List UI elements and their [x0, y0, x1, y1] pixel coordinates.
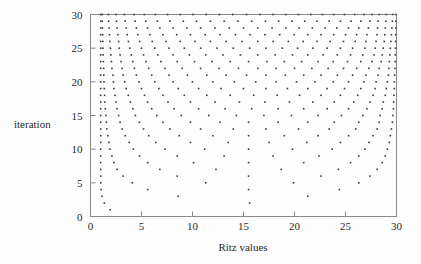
- data-point: [249, 202, 251, 204]
- data-point: [100, 128, 102, 130]
- data-point: [208, 115, 210, 117]
- data-point: [129, 47, 131, 49]
- data-point: [149, 34, 151, 36]
- data-point: [136, 74, 138, 76]
- data-point: [368, 27, 370, 29]
- data-point: [324, 27, 326, 29]
- data-point: [249, 47, 251, 49]
- data-point: [318, 155, 320, 157]
- data-point: [299, 95, 301, 97]
- data-point: [137, 34, 139, 36]
- data-point: [317, 115, 319, 117]
- data-point: [204, 34, 206, 36]
- x-tick-label: 10: [187, 220, 199, 232]
- data-point: [121, 128, 123, 130]
- data-point: [164, 68, 166, 70]
- data-point: [139, 41, 141, 43]
- data-point: [366, 108, 368, 110]
- data-point: [119, 121, 121, 123]
- data-point: [350, 20, 352, 22]
- data-point: [100, 169, 102, 171]
- data-point: [103, 68, 105, 70]
- data-point: [333, 121, 335, 123]
- data-point: [275, 81, 277, 83]
- data-point: [223, 20, 225, 22]
- data-point: [109, 209, 111, 211]
- data-point: [297, 47, 299, 49]
- data-point: [298, 14, 300, 16]
- data-point: [347, 61, 349, 63]
- data-point: [129, 101, 131, 103]
- data-point: [200, 47, 202, 49]
- data-point: [205, 14, 207, 16]
- data-point: [157, 54, 159, 56]
- data-point: [162, 95, 164, 97]
- data-point: [380, 61, 382, 63]
- data-point: [229, 61, 231, 63]
- data-point: [220, 88, 222, 90]
- data-point: [291, 115, 293, 117]
- data-point: [246, 74, 248, 76]
- data-point: [285, 14, 287, 16]
- data-point: [162, 34, 164, 36]
- data-point: [227, 142, 229, 144]
- data-point: [301, 61, 303, 63]
- data-point: [395, 14, 397, 16]
- data-point: [248, 121, 250, 123]
- data-point: [173, 108, 175, 110]
- data-point: [101, 20, 103, 22]
- data-point: [386, 88, 388, 90]
- plot-canvas: 051015202530 051015202530 iteration Ritz…: [0, 0, 421, 264]
- data-point: [276, 95, 278, 97]
- data-point: [392, 14, 394, 16]
- data-point: [100, 88, 102, 90]
- data-point: [384, 27, 386, 29]
- data-point: [395, 27, 397, 29]
- data-point: [184, 95, 186, 97]
- data-point: [333, 101, 335, 103]
- x-tick-label: 15: [238, 220, 250, 232]
- data-point: [222, 54, 224, 56]
- data-point: [263, 115, 265, 117]
- data-point: [374, 88, 376, 90]
- data-point: [177, 88, 179, 90]
- y-tick-label: 30: [72, 9, 84, 21]
- data-point: [168, 47, 170, 49]
- data-point: [377, 74, 379, 76]
- data-point: [168, 74, 170, 76]
- data-point: [392, 20, 394, 22]
- data-point: [210, 41, 212, 43]
- data-point: [100, 101, 102, 103]
- data-point: [154, 47, 156, 49]
- data-point: [100, 108, 102, 110]
- data-point: [100, 142, 102, 144]
- data-point: [100, 182, 102, 184]
- data-point: [115, 101, 117, 103]
- data-point: [101, 14, 103, 16]
- data-point: [154, 14, 156, 16]
- data-point: [348, 27, 350, 29]
- data-point: [206, 74, 208, 76]
- data-point: [128, 142, 130, 144]
- data-point: [132, 182, 134, 184]
- data-point: [393, 101, 395, 103]
- data-point: [278, 20, 280, 22]
- data-point: [249, 34, 251, 36]
- data-point: [360, 61, 362, 63]
- data-point: [117, 34, 119, 36]
- data-point: [386, 14, 388, 16]
- data-point: [240, 54, 242, 56]
- data-point: [100, 148, 102, 150]
- data-point: [141, 88, 143, 90]
- data-point: [147, 162, 149, 164]
- data-point: [337, 74, 339, 76]
- data-point: [357, 95, 359, 97]
- data-point: [214, 27, 216, 29]
- data-point: [275, 68, 277, 70]
- data-point: [395, 20, 397, 22]
- data-point: [272, 41, 274, 43]
- data-point: [322, 54, 324, 56]
- data-point: [246, 14, 248, 16]
- data-point: [312, 47, 314, 49]
- data-point: [379, 115, 381, 117]
